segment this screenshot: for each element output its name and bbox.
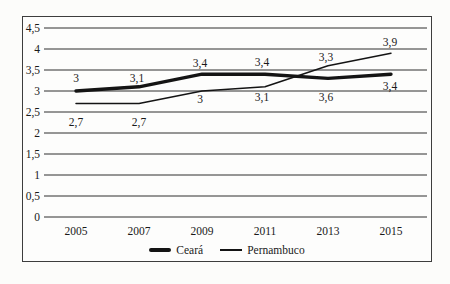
line-chart-plot: 4,543,532,521,510,5020052007200920112013… xyxy=(0,0,450,284)
legend-label-ceara: Ceará xyxy=(176,244,203,256)
data-label-ceara: 3,4 xyxy=(193,57,208,70)
ceara-line-sample-icon xyxy=(149,248,171,252)
x-axis-tick-label: 2013 xyxy=(317,225,340,237)
data-label-pernambuco: 3 xyxy=(197,93,203,105)
y-axis-tick-label: 3,5 xyxy=(26,64,41,77)
x-axis-tick-label: 2005 xyxy=(65,225,88,237)
x-axis-tick-label: 2007 xyxy=(128,225,151,237)
legend-label-pernambuco: Pernambuco xyxy=(247,244,304,256)
data-label-pernambuco: 3,1 xyxy=(255,91,270,104)
chart-canvas: 4,543,532,521,510,5020052007200920112013… xyxy=(0,0,450,284)
data-label-pernambuco: 3,9 xyxy=(383,36,398,49)
data-label-ceara: 3,1 xyxy=(130,72,145,85)
y-axis-tick-label: 4,5 xyxy=(26,22,41,35)
data-label-pernambuco: 2,7 xyxy=(132,116,147,129)
y-axis-tick-label: 1,5 xyxy=(26,148,41,161)
pernambuco-line-sample-icon xyxy=(220,249,242,251)
chart-legend: Ceará Pernambuco xyxy=(22,244,432,256)
legend-item-ceara: Ceará xyxy=(149,244,203,256)
data-label-ceara: 3,4 xyxy=(255,56,270,69)
data-label-pernambuco: 2,7 xyxy=(69,116,84,129)
data-label-ceara: 3 xyxy=(73,72,79,84)
y-axis-tick-label: 2 xyxy=(34,127,40,139)
y-axis-tick-label: 1 xyxy=(34,169,40,181)
y-axis-tick-label: 4 xyxy=(34,43,40,55)
data-label-ceara: 3,3 xyxy=(319,51,334,64)
x-axis-tick-label: 2011 xyxy=(254,225,277,237)
y-axis-tick-label: 3 xyxy=(34,85,40,97)
x-axis-tick-label: 2015 xyxy=(380,225,403,237)
data-label-ceara: 3,4 xyxy=(383,80,398,93)
y-axis-tick-label: 0 xyxy=(34,211,40,223)
data-label-pernambuco: 3,6 xyxy=(319,91,334,104)
y-axis-tick-label: 2,5 xyxy=(26,106,41,119)
y-axis-tick-label: 0,5 xyxy=(26,190,41,203)
legend-item-pernambuco: Pernambuco xyxy=(220,244,304,256)
x-axis-tick-label: 2009 xyxy=(191,225,214,237)
